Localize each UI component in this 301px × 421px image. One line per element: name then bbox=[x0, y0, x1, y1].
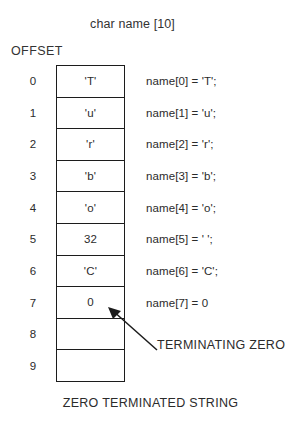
offset-number: 8 bbox=[18, 319, 48, 351]
memory-cell-value: 0 bbox=[87, 296, 94, 308]
memory-cell-value: 32 bbox=[84, 233, 97, 245]
memory-cell-row: 'o' bbox=[57, 192, 124, 224]
diagram-title: char name [10] bbox=[0, 17, 265, 31]
assignment-statement: name[3] = 'b'; bbox=[146, 160, 296, 192]
assignment-statement: name[0] = 'T'; bbox=[146, 65, 296, 97]
assignment-statement: name[2] = 'r'; bbox=[146, 128, 296, 160]
memory-cell-value: 'u' bbox=[85, 107, 96, 119]
memory-cell-row: 'T' bbox=[57, 66, 124, 98]
offset-number: 1 bbox=[18, 97, 48, 129]
zero-terminated-string-diagram: char name [10] OFFSET 0 1 2 3 4 5 6 7 8 … bbox=[0, 0, 301, 421]
memory-cell-value: 'r' bbox=[86, 138, 95, 150]
offset-column-heading: OFFSET bbox=[11, 44, 63, 58]
offset-number: 2 bbox=[18, 128, 48, 160]
memory-cell-value: 'T' bbox=[84, 75, 96, 87]
offset-number: 4 bbox=[18, 192, 48, 224]
assignment-statement-column: name[0] = 'T'; name[1] = 'u'; name[2] = … bbox=[146, 65, 296, 319]
offset-number: 3 bbox=[18, 160, 48, 192]
memory-cell-value: 'o' bbox=[85, 202, 96, 214]
offset-number: 9 bbox=[18, 350, 48, 382]
assignment-statement: name[4] = 'o'; bbox=[146, 192, 296, 224]
memory-cell-row: 'r' bbox=[57, 129, 124, 161]
memory-cell-row: 'u' bbox=[57, 98, 124, 130]
offset-number: 5 bbox=[18, 224, 48, 256]
diagram-caption: ZERO TERMINATED STRING bbox=[0, 396, 301, 410]
offset-number: 7 bbox=[18, 287, 48, 319]
offset-number: 0 bbox=[18, 65, 48, 97]
offset-number-column: 0 1 2 3 4 5 6 7 8 9 bbox=[18, 65, 48, 382]
memory-cell-value: 'C' bbox=[84, 265, 97, 277]
assignment-statement: name[1] = 'u'; bbox=[146, 97, 296, 129]
assignment-statement: name[5] = ' '; bbox=[146, 224, 296, 256]
offset-number: 6 bbox=[18, 255, 48, 287]
terminating-zero-annotation: TERMINATING ZERO bbox=[157, 338, 285, 352]
assignment-statement: name[6] = 'C'; bbox=[146, 255, 296, 287]
memory-cell-value: 'b' bbox=[85, 170, 96, 182]
memory-cell-row: 'C' bbox=[57, 256, 124, 288]
memory-cell-row: 'b' bbox=[57, 161, 124, 193]
memory-cell-row: 32 bbox=[57, 224, 124, 256]
